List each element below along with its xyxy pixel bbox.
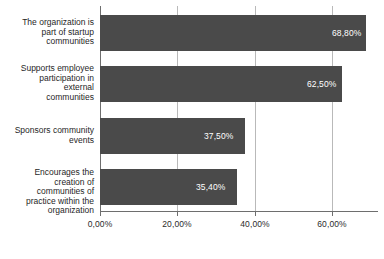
category-label: The organization is part of startup comm… <box>0 18 94 47</box>
category-label: Supports employee participation in exter… <box>0 64 94 102</box>
x-tick-label-20: 20,00% <box>162 219 191 229</box>
bar-row: 37,50% <box>100 118 378 154</box>
x-tick-mark-60 <box>332 212 333 216</box>
bar-value-label: 35,40% <box>196 182 225 192</box>
category-label: Sponsors community events <box>0 126 94 145</box>
bar[interactable] <box>100 15 366 51</box>
bar-value-label: 62,50% <box>307 79 336 89</box>
x-axis-line <box>100 211 378 212</box>
x-tick-mark-20 <box>177 212 178 216</box>
bar-value-label: 37,50% <box>204 131 233 141</box>
category-label: Encourages the creation of communities o… <box>0 168 94 216</box>
bar-row: 35,40% <box>100 169 378 205</box>
bar[interactable] <box>100 66 342 102</box>
bar-row: 62,50% <box>100 66 378 102</box>
x-tick-mark-40 <box>255 212 256 216</box>
x-tick-label-60: 60,00% <box>317 219 346 229</box>
x-tick-mark-0 <box>100 212 101 216</box>
bar-row: 68,80% <box>100 15 378 51</box>
bar-value-label: 68,80% <box>332 28 361 38</box>
x-tick-label-0: 0,00% <box>88 219 113 229</box>
bar-chart: 0,00% 20,00% 40,00% 60,00% 68,80% The or… <box>0 0 384 259</box>
x-tick-label-40: 40,00% <box>240 219 269 229</box>
